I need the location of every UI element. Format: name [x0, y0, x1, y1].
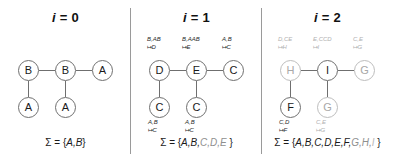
rule-rhs: ↦D	[147, 44, 161, 52]
rewrite-rule-top: B,AAB↦E	[182, 36, 200, 51]
graph-node-d: D	[149, 60, 170, 81]
rule-rhs: ↦G	[353, 44, 363, 52]
maps-to-icon: ↦	[148, 127, 153, 133]
rewrite-rule-bottom: C,D↦F	[279, 119, 289, 134]
graph-node-a: A	[92, 60, 113, 81]
panel-i2: i = 2 HIGFGD,CE↦HE,CCD↦IC,E↦GC,D↦FC,E↦G …	[262, 0, 393, 162]
graph-node-g: G	[317, 97, 338, 118]
rewrite-rule-top: D,CE↦H	[278, 36, 292, 51]
rule-lhs: E,CCD	[313, 36, 332, 44]
sigma-black-i2: A,B,C,D,E,F,	[295, 137, 351, 148]
rule-lhs: D,CE	[278, 36, 292, 44]
graph-node-b: B	[55, 60, 76, 81]
graph-edge	[39, 70, 55, 71]
graph-edge	[338, 70, 354, 71]
graph-edge	[301, 70, 317, 71]
graph-edge	[159, 81, 160, 97]
rule-lhs: A,B	[185, 119, 195, 127]
graph-evolution-figure: i = 0 BBAAA Σ = {A,B} i = 1 DECCCB,AB↦DB…	[0, 0, 393, 162]
rewrite-rule-top: B,AB↦D	[147, 36, 161, 51]
sigma-suffix-i2: }	[375, 137, 381, 148]
maps-to-icon: ↦	[278, 44, 283, 50]
rule-rhs: ↦H	[278, 44, 292, 52]
rule-rhs: ↦I	[313, 44, 332, 52]
sigma-prefix-i2: Σ = {	[274, 137, 295, 148]
rule-rhs: ↦C	[185, 127, 195, 135]
maps-to-icon: ↦	[182, 44, 187, 50]
graph-node-a: A	[18, 97, 39, 118]
rule-lhs: B,AAB	[182, 36, 200, 44]
graph-node-a: A	[55, 97, 76, 118]
rule-rhs: ↦C	[148, 127, 158, 135]
graph-edge	[28, 81, 29, 97]
maps-to-icon: ↦	[222, 44, 227, 50]
graph-node-e: E	[186, 60, 207, 81]
sigma-prefix-i0: Σ = {	[45, 137, 66, 148]
rule-lhs: B,AB	[147, 36, 161, 44]
sigma-prefix-i1: Σ = {	[160, 137, 181, 148]
rewrite-rule-bottom: A,B↦C	[148, 119, 158, 134]
graph-node-c: C	[223, 60, 244, 81]
graph-edge	[196, 81, 197, 97]
graph-edge	[65, 81, 66, 97]
maps-to-icon: ↦	[316, 127, 321, 133]
rewrite-rule-bottom: C,E↦G	[316, 119, 326, 134]
sigma-line-i0: Σ = {A,B}	[0, 137, 131, 148]
sigma-suffix-i1: }	[227, 137, 233, 148]
sigma-line-i1: Σ = {A,B,C,D,E }	[131, 137, 262, 148]
rule-lhs: C,E	[353, 36, 363, 44]
sigma-suffix-i0: }	[82, 137, 85, 148]
rule-lhs: A,B	[222, 36, 232, 44]
rewrite-rule-top: E,CCD↦I	[313, 36, 332, 51]
rule-lhs: A,B	[148, 119, 158, 127]
sigma-black-i0: A,B	[66, 137, 82, 148]
maps-to-icon: ↦	[313, 44, 318, 50]
graph-node-h: H	[280, 60, 301, 81]
rule-rhs: ↦E	[182, 44, 200, 52]
sigma-black-i1: A,B,	[181, 137, 200, 148]
maps-to-icon: ↦	[147, 44, 152, 50]
rule-lhs: C,D	[279, 119, 289, 127]
rewrite-rule-top: C,E↦G	[353, 36, 363, 51]
rule-lhs: C,E	[316, 119, 326, 127]
graph-edge	[290, 81, 291, 97]
maps-to-icon: ↦	[279, 127, 284, 133]
panel-i1: i = 1 DECCCB,AB↦DB,AAB↦EA,B↦CA,B↦CA,B↦C …	[131, 0, 262, 162]
rule-rhs: ↦F	[279, 127, 289, 135]
sigma-gray1-i1: C,D,E	[200, 137, 227, 148]
maps-to-icon: ↦	[353, 44, 358, 50]
graph-edge	[207, 70, 223, 71]
graph-node-g: G	[354, 60, 375, 81]
rewrite-rule-bottom: A,B↦C	[185, 119, 195, 134]
graph-node-i: I	[317, 60, 338, 81]
rule-rhs: ↦G	[316, 127, 326, 135]
graph-node-c: C	[149, 97, 170, 118]
graph-edge	[170, 70, 186, 71]
maps-to-icon: ↦	[185, 127, 190, 133]
panel-i0: i = 0 BBAAA Σ = {A,B}	[0, 0, 131, 162]
sigma-gray1-i2: G,H,	[351, 137, 372, 148]
rule-rhs: ↦C	[222, 44, 232, 52]
graph-edge	[76, 70, 92, 71]
graph-edge	[327, 81, 328, 97]
graph-node-f: F	[280, 97, 301, 118]
graph-node-b: B	[18, 60, 39, 81]
sigma-line-i2: Σ = {A,B,C,D,E,F,G,H,I }	[262, 137, 393, 148]
graph-node-c: C	[186, 97, 207, 118]
rewrite-rule-top: A,B↦C	[222, 36, 232, 51]
